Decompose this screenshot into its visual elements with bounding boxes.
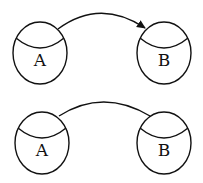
diagram-canvas: A B A B xyxy=(0,0,203,183)
bottom-diagram: A B xyxy=(15,102,191,174)
node-b-top: B xyxy=(137,22,191,84)
node-b-bottom: B xyxy=(137,112,191,174)
node-label: A xyxy=(35,140,49,160)
node-label: A xyxy=(33,50,47,70)
node-a-bottom: A xyxy=(15,112,69,174)
undirected-edge xyxy=(59,102,150,116)
top-diagram: A B xyxy=(13,13,191,84)
node-a-top: A xyxy=(13,22,67,84)
directed-edge xyxy=(58,13,145,29)
node-label: B xyxy=(158,50,171,70)
node-label: B xyxy=(158,140,171,160)
